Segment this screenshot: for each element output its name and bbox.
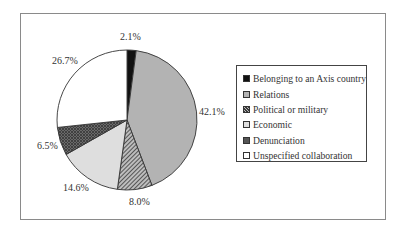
legend-label: Political or military [253, 104, 328, 115]
slice-label-economic: 14.6% [63, 183, 89, 193]
slice-label-unspecified: 26.7% [52, 56, 78, 66]
legend-label: Belonging to an Axis country [253, 73, 366, 84]
legend-item-denunciation: Denunciation [243, 133, 366, 148]
legend-item-economic: Economic [243, 117, 366, 132]
legend-item-unspecified: Unspecified collaboration [243, 148, 366, 163]
swatch-hatch-icon [243, 106, 250, 113]
slice-label-axis: 2.1% [120, 32, 141, 42]
legend-label: Denunciation [253, 135, 305, 146]
swatch-black-icon [243, 75, 250, 82]
pie-slices [57, 50, 197, 190]
swatch-lightgray-icon [243, 121, 250, 128]
legend: Belonging to an Axis country Relations P… [236, 65, 367, 162]
legend-label: Relations [253, 89, 289, 100]
swatch-crosshatch-icon [243, 137, 250, 144]
legend-label: Unspecified collaboration [253, 150, 352, 161]
slice-label-political: 8.0% [129, 197, 150, 207]
legend-item-political: Political or military [243, 102, 366, 117]
legend-item-relations: Relations [243, 86, 366, 101]
swatch-white-icon [243, 152, 250, 159]
slice-label-relations: 42.1% [199, 107, 225, 117]
legend-item-axis: Belonging to an Axis country [243, 71, 366, 86]
slice-label-denunciation: 6.5% [37, 141, 58, 151]
swatch-gray-icon [243, 91, 250, 98]
legend-label: Economic [253, 119, 292, 130]
